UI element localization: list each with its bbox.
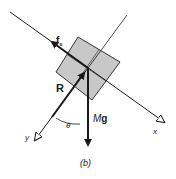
caption: (b)	[80, 158, 91, 168]
x-axis-label: x	[152, 127, 158, 136]
friction-label: fs	[56, 35, 63, 47]
weight-label: Mg	[93, 113, 107, 124]
free-body-diagram: fs R Mg θ x y (b)	[0, 0, 176, 179]
angle-label: θ	[66, 121, 71, 130]
normal-force-label: R	[56, 82, 64, 94]
y-axis-label: y	[24, 133, 30, 142]
